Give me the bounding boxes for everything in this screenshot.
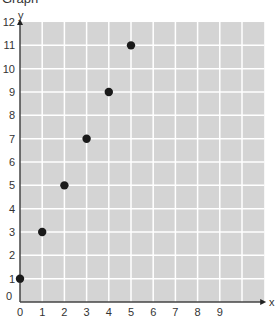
data-point (38, 228, 46, 236)
x-tick-label: 4 (106, 306, 112, 318)
y-tick-label: 11 (4, 39, 15, 51)
y-tick-label: 12 (3, 16, 15, 28)
data-point (82, 134, 90, 142)
y-tick-label: 4 (9, 203, 15, 215)
data-point (105, 88, 113, 96)
y-tick-label: 7 (9, 133, 15, 145)
x-tick-label: 3 (84, 306, 90, 318)
data-point (16, 274, 24, 282)
data-point (60, 181, 68, 189)
y-tick-label: 6 (9, 156, 15, 168)
y-tick-label: 8 (9, 109, 15, 121)
x-axis-label: x (269, 296, 275, 308)
x-tick-label: 0 (17, 306, 23, 318)
y-tick-label: 0 (6, 290, 12, 302)
y-tick-label: 2 (9, 249, 15, 261)
x-tick-label: 1 (39, 306, 45, 318)
scatter-chart: 0123456789 0123456789101112 x y (0, 0, 277, 318)
x-tick-label: 5 (128, 306, 134, 318)
y-axis-label: y (18, 9, 24, 21)
x-tick-labels: 0123456789 (17, 306, 223, 318)
y-tick-label: 10 (3, 63, 15, 75)
y-tick-label: 9 (9, 86, 15, 98)
x-tick-label: 7 (172, 306, 178, 318)
x-tick-label: 9 (217, 306, 223, 318)
x-tick-label: 6 (150, 306, 156, 318)
y-tick-label: 5 (9, 179, 15, 191)
y-tick-labels: 0123456789101112 (3, 16, 15, 302)
x-tick-label: 8 (195, 306, 201, 318)
data-point (127, 41, 135, 49)
x-tick-label: 2 (61, 306, 67, 318)
y-tick-label: 1 (9, 273, 15, 285)
y-tick-label: 3 (9, 226, 15, 238)
